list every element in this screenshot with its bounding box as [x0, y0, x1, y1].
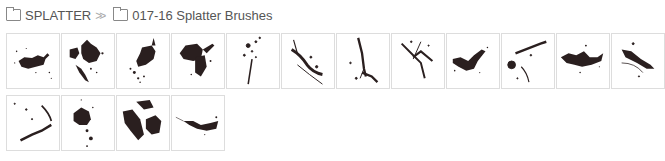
brush-thumbnail[interactable] [116, 33, 170, 89]
splatter-brush-8-icon [392, 34, 444, 88]
splatter-brush-4-icon [172, 34, 224, 88]
breadcrumb-item-current[interactable]: 017-16 Splatter Brushes [132, 8, 272, 23]
breadcrumb: SPLATTER >> 017-16 Splatter Brushes [6, 5, 272, 25]
brush-thumbnail[interactable] [116, 95, 170, 151]
splatter-brush-15-icon [117, 96, 169, 150]
splatter-brush-14-icon [62, 96, 114, 150]
splatter-brush-7-icon [337, 34, 389, 88]
splatter-brush-11-icon [557, 34, 609, 88]
brush-thumbnail[interactable] [611, 33, 665, 89]
brush-thumbnail[interactable] [61, 95, 115, 151]
splatter-brush-12-icon [612, 34, 664, 88]
breadcrumb-separator: >> [91, 8, 107, 23]
brush-thumbnail[interactable] [391, 33, 445, 89]
brush-thumbnail[interactable] [556, 33, 610, 89]
splatter-brush-9-icon [447, 34, 499, 88]
brush-thumbnail[interactable] [336, 33, 390, 89]
brush-thumbnail[interactable] [446, 33, 500, 89]
chevron-right-icon: >> [95, 9, 103, 23]
splatter-brush-2-icon [62, 34, 114, 88]
splatter-brush-6-icon [282, 34, 334, 88]
splatter-brush-1-icon [7, 34, 59, 88]
brush-thumbnail[interactable] [171, 95, 225, 151]
brush-thumbnail[interactable] [501, 33, 555, 89]
splatter-brush-16-icon [172, 96, 224, 150]
splatter-brush-3-icon [117, 34, 169, 88]
brush-thumbnail[interactable] [61, 33, 115, 89]
brush-grid [6, 33, 665, 151]
brush-thumbnail[interactable] [281, 33, 335, 89]
folder-icon [113, 9, 128, 21]
brush-thumbnail[interactable] [6, 33, 60, 89]
splatter-brush-13-icon [7, 96, 59, 150]
folder-icon [6, 9, 21, 21]
splatter-brush-5-icon [227, 34, 279, 88]
brush-thumbnail[interactable] [171, 33, 225, 89]
brush-thumbnail[interactable] [226, 33, 280, 89]
brush-thumbnail[interactable] [6, 95, 60, 151]
breadcrumb-item-splatter[interactable]: SPLATTER [25, 8, 91, 23]
splatter-brush-10-icon [502, 34, 554, 88]
